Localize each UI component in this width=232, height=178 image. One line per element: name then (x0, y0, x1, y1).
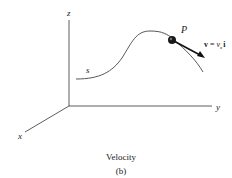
arrowhead-icon (197, 51, 205, 58)
trajectory-curve (76, 31, 203, 79)
particle-point (168, 36, 176, 44)
path-label: s (86, 65, 90, 75)
velocity-arrow (172, 40, 200, 55)
z-axis-label: z (66, 8, 71, 18)
sub-caption: (b) (116, 166, 127, 176)
point-label: P (180, 24, 187, 35)
velocity-diagram: z y x s P v = vxi Velocity (b) (0, 0, 232, 178)
tangent-hint (160, 32, 170, 36)
velocity-equation: v = vxi (204, 40, 226, 50)
y-axis-label: y (215, 102, 220, 112)
x-axis (25, 106, 69, 132)
x-axis-label: x (17, 131, 22, 141)
particle-highlight (170, 38, 172, 40)
caption: Velocity (106, 152, 136, 162)
